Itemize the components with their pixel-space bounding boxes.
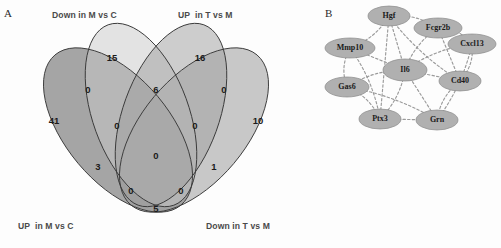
region-up-m-up-t: 0: [128, 185, 133, 196]
region-down-m-only: 15: [107, 52, 118, 63]
node-cd40-label: Cd40: [451, 76, 469, 85]
region-down-m-down-t: 0: [178, 185, 183, 196]
node-hgf[interactable]: Hgf: [368, 6, 410, 26]
node-fcgr2b[interactable]: Fcgr2b: [414, 18, 462, 38]
network-graph: HgfFcgr2bCxcl13Mmp10Il6Cd40Gas6Ptx3Grn: [312, 0, 501, 248]
node-cd40[interactable]: Cd40: [439, 71, 481, 91]
region-all-four: 0: [153, 150, 158, 161]
node-grn[interactable]: Grn: [416, 110, 458, 130]
panel-a-venn: A: [0, 0, 312, 248]
region-down-t-only: 10: [253, 115, 264, 126]
node-mmp10-label: Mmp10: [337, 43, 364, 52]
venn-set-label-up-t-vs-m: UP in T vs M: [178, 10, 233, 20]
venn-set-label-up-m-vs-c: UP in M vs C: [18, 221, 74, 231]
node-cxcl13-label: Cxcl13: [460, 39, 484, 48]
node-il6[interactable]: Il6: [383, 59, 427, 81]
node-fcgr2b-label: Fcgr2b: [426, 23, 451, 32]
node-gas6[interactable]: Gas6: [325, 77, 369, 97]
node-il6-label: Il6: [400, 65, 409, 74]
region-up-t-down-t: 0: [221, 84, 226, 95]
node-cxcl13[interactable]: Cxcl13: [448, 34, 496, 54]
node-ptx3[interactable]: Ptx3: [359, 109, 401, 129]
venn-set-label-down-t-vs-m: Down in T vs M: [206, 221, 270, 231]
node-grn-label: Grn: [430, 115, 445, 124]
region-up-m-down-m-up-t: 0: [114, 120, 119, 131]
figure-root: A: [0, 0, 501, 248]
node-gas6-label: Gas6: [338, 82, 355, 91]
region-up-m-up-t-down-t: 1: [211, 161, 216, 172]
region-up-t-only: 16: [195, 52, 206, 63]
region-up-m-down-m: 0: [85, 84, 90, 95]
network-node-group: HgfFcgr2bCxcl13Mmp10Il6Cd40Gas6Ptx3Grn: [325, 6, 496, 130]
venn-set-label-down-m-vs-c: Down in M vs C: [52, 10, 117, 20]
region-up-m-only: 41: [49, 115, 60, 126]
node-hgf-label: Hgf: [383, 11, 396, 20]
node-ptx3-label: Ptx3: [372, 114, 388, 123]
panel-b-network: B HgfFcgr2bCxcl13Mmp10Il6Cd40Gas6Ptx3Grn: [312, 0, 501, 248]
region-up-m-down-m-down-t: 3: [95, 161, 100, 172]
region-up-m-down-t: 5: [153, 203, 158, 214]
region-down-m-up-t-down-t: 0: [192, 120, 197, 131]
node-mmp10[interactable]: Mmp10: [325, 38, 375, 58]
region-down-m-up-t: 6: [153, 84, 158, 95]
